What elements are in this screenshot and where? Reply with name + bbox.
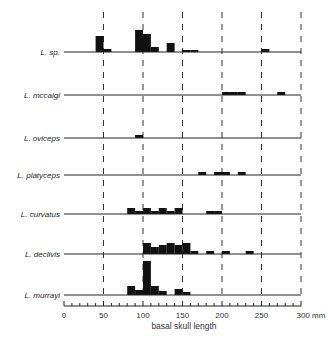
row-label: L. platyceps	[17, 171, 60, 180]
histogram-chart: L. sp.L. mccaigiL. ovicepsL. platycepsL.…	[0, 0, 328, 346]
x-axis-label: basal skull length	[151, 321, 216, 331]
histogram-bar	[96, 36, 104, 52]
histogram-bar	[175, 208, 183, 214]
histogram-bar	[167, 243, 175, 254]
histogram-bar	[175, 245, 183, 254]
histogram-bar	[143, 243, 151, 254]
histogram-bar	[135, 30, 143, 52]
x-tick-label: 50	[99, 311, 108, 320]
histogram-bar	[143, 261, 151, 295]
histogram-bar	[167, 43, 175, 52]
histogram-bar	[127, 208, 135, 214]
x-tick-label: 0	[62, 311, 67, 320]
histogram-bar	[127, 286, 135, 295]
x-tick-label: 200	[215, 311, 229, 320]
histogram-bar	[159, 291, 167, 295]
histogram-bar	[159, 245, 167, 254]
row-label: L. declivis	[25, 250, 60, 259]
row-label: L. murrayi	[24, 291, 60, 300]
histogram-bar	[151, 286, 159, 295]
x-tick-label: 300 mm	[297, 311, 326, 320]
histogram-bar	[175, 289, 183, 295]
row-label: L. mccaigi	[24, 91, 60, 100]
histogram-bar	[183, 243, 191, 254]
histogram-bar	[143, 208, 151, 214]
x-tick-label: 250	[255, 311, 269, 320]
histogram-bar	[135, 290, 143, 295]
histogram-bar	[159, 208, 167, 214]
histogram-bar	[151, 247, 159, 254]
row-label: L. sp.	[40, 48, 60, 57]
x-tick-label: 100	[136, 311, 150, 320]
row-label: L. curvatus	[21, 210, 60, 219]
x-tick-label: 150	[176, 311, 190, 320]
row-label: L. oviceps	[24, 134, 60, 143]
histogram-bar	[143, 34, 151, 52]
histogram-bar	[151, 47, 159, 52]
